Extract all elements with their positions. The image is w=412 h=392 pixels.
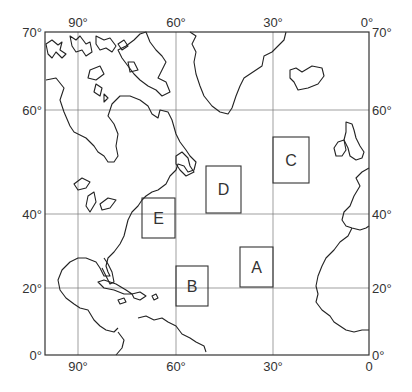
svg-text:60°: 60°: [372, 103, 392, 118]
region-e: E: [142, 198, 175, 238]
latitude-labels-right: 70° 60° 40° 20° 0°: [372, 25, 392, 363]
svg-text:30°: 30°: [263, 15, 283, 30]
great-lakes: [74, 178, 90, 190]
south-america-coast: [138, 316, 206, 352]
svg-text:60°: 60°: [166, 15, 186, 30]
svg-text:90°: 90°: [68, 359, 88, 374]
north-america-coast: [46, 78, 196, 332]
arctic-islands: [46, 40, 66, 58]
ireland: [334, 140, 346, 156]
latitude-labels-left: 70° 60° 40° 20° 0°: [22, 25, 42, 363]
svg-text:A: A: [251, 259, 262, 276]
svg-text:C: C: [285, 152, 297, 169]
svg-text:20°: 20°: [22, 281, 42, 296]
svg-text:40°: 40°: [22, 207, 42, 222]
cuba: [98, 280, 132, 294]
baffin-island: [118, 32, 170, 96]
svg-text:60°: 60°: [22, 103, 42, 118]
longitude-labels-bottom: 90° 60° 30° 0: [68, 359, 372, 374]
svg-text:70°: 70°: [22, 25, 42, 40]
region-c: C: [273, 137, 309, 183]
svg-text:20°: 20°: [372, 281, 392, 296]
svg-text:40°: 40°: [372, 207, 392, 222]
svg-text:90°: 90°: [68, 15, 88, 30]
svg-text:B: B: [187, 278, 198, 295]
svg-text:E: E: [153, 210, 164, 227]
longitude-labels-top: 90° 60° 30° 0°: [68, 15, 373, 30]
svg-text:0°: 0°: [30, 348, 42, 363]
region-a: A: [240, 247, 273, 287]
svg-text:D: D: [218, 181, 230, 198]
europe-africa-coast: [342, 168, 369, 230]
region-b: B: [176, 266, 208, 306]
svg-text:0°: 0°: [372, 348, 384, 363]
svg-text:60°: 60°: [166, 359, 186, 374]
region-d: D: [206, 166, 241, 213]
greenland: [190, 32, 286, 114]
great-britain: [344, 122, 364, 160]
svg-text:30°: 30°: [263, 359, 283, 374]
iceland: [290, 66, 324, 90]
svg-text:70°: 70°: [372, 25, 392, 40]
atlantic-map: A B C D E 90° 60° 30° 0° 90° 60° 30° 0 7…: [0, 0, 412, 392]
